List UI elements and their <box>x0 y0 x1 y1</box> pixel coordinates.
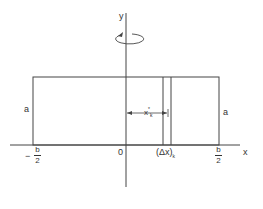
arrow-right-icon <box>162 111 167 115</box>
minus-sign: − <box>25 152 30 161</box>
arrow-left-icon <box>127 111 132 115</box>
rotation-arrow-icon <box>116 32 144 44</box>
diagram-canvas <box>0 0 263 209</box>
origin-label: 0 <box>118 148 123 157</box>
xk-star-label: x*k <box>144 105 152 120</box>
y-axis-label: y <box>119 12 124 21</box>
x-axis-label: x <box>243 148 248 157</box>
left-height-label: a <box>24 105 29 114</box>
right-height-label: a <box>223 108 228 117</box>
left-fraction: b 2 <box>34 146 41 165</box>
delta-x-label: (Δx)k <box>156 148 175 161</box>
right-fraction: b 2 <box>215 146 222 165</box>
